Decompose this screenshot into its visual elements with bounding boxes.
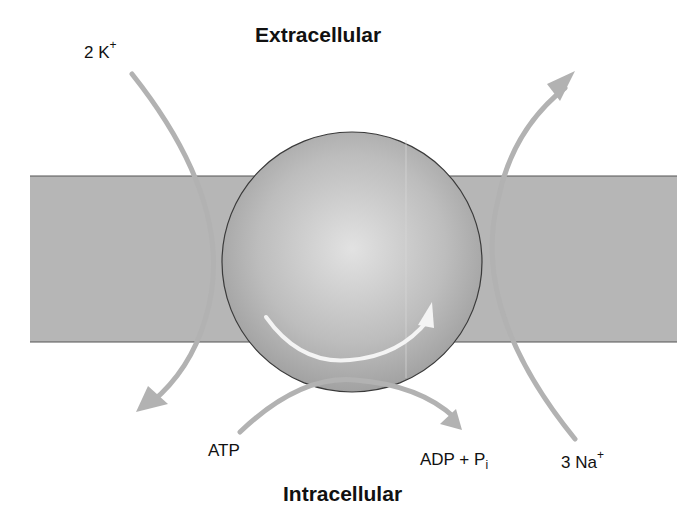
sodium-charge: +: [597, 448, 604, 462]
sodium-count: 3 Na: [561, 453, 597, 472]
potassium-charge: +: [110, 38, 117, 52]
pump-protein: [222, 132, 482, 392]
adp-text: ADP + P: [420, 450, 485, 469]
adp-label: ADP + Pi: [420, 450, 488, 472]
sodium-potassium-pump-diagram: [0, 0, 699, 518]
adp-subscript: i: [485, 458, 488, 472]
sodium-label: 3 Na+: [561, 450, 604, 473]
atp-label: ATP: [208, 441, 240, 461]
potassium-count: 2 K: [84, 43, 110, 62]
intracellular-label: Intracellular: [283, 482, 402, 506]
extracellular-label: Extracellular: [255, 23, 381, 47]
potassium-label: 2 K+: [84, 40, 117, 63]
